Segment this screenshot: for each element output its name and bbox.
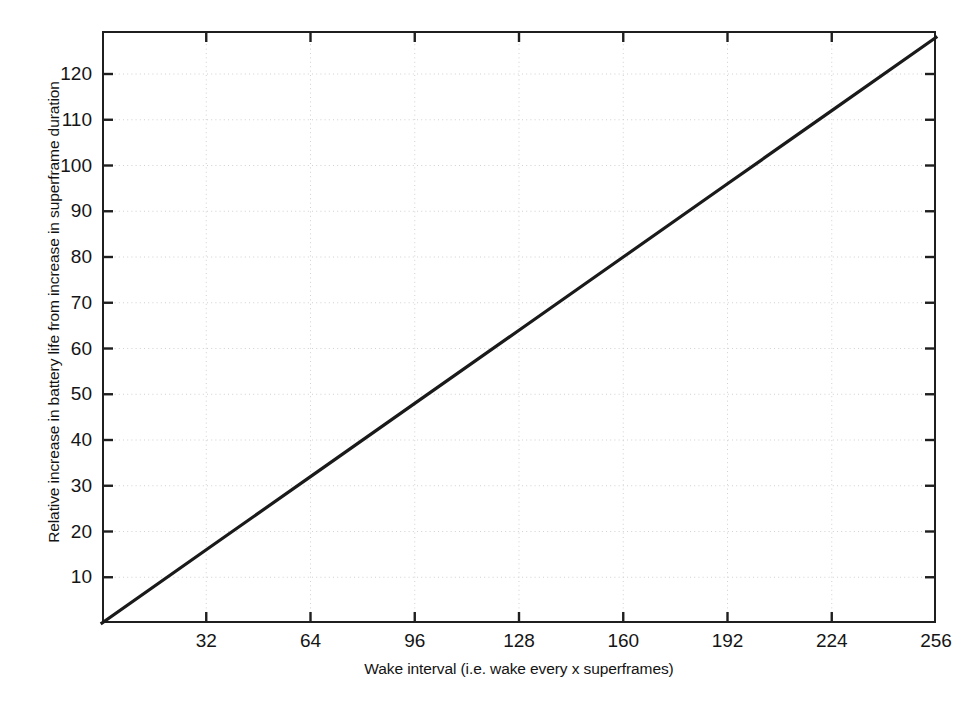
x-axis-title: Wake interval (i.e. wake every x superfr… (102, 660, 936, 678)
y-axis-tick-label: 120 (60, 64, 92, 83)
y-axis-tick-label: 80 (71, 247, 92, 266)
x-axis-tick-label: 224 (816, 631, 848, 650)
chart-figure: Relative increase in battery life from i… (0, 0, 980, 707)
y-axis-tick-label: 10 (71, 567, 92, 586)
y-axis-tick-labels: 102030405060708090100110120 (0, 31, 92, 623)
x-axis-tick-label: 256 (920, 631, 952, 650)
series-line (102, 37, 936, 623)
y-axis-tick-label: 60 (71, 339, 92, 358)
y-axis-tick-label: 40 (71, 430, 92, 449)
x-axis-tick-labels: 326496128160192224256 (102, 631, 936, 657)
y-axis-tick-label: 110 (62, 110, 92, 129)
y-axis-tick-label: 70 (71, 293, 92, 312)
y-axis-tick-label: 90 (71, 201, 92, 220)
x-axis-tick-label: 32 (196, 631, 217, 650)
y-axis-tick-label: 30 (71, 476, 92, 495)
x-axis-tick-label: 192 (712, 631, 744, 650)
x-axis-tick-label: 96 (404, 631, 425, 650)
x-axis-tick-label: 64 (300, 631, 321, 650)
y-axis-tick-label: 50 (71, 384, 92, 403)
data-series-line (102, 31, 936, 623)
plot-area (102, 31, 936, 623)
x-axis-tick-label: 160 (607, 631, 639, 650)
y-axis-tick-label: 20 (71, 522, 92, 541)
y-axis-tick-label: 100 (60, 156, 92, 175)
x-axis-tick-label: 128 (503, 631, 535, 650)
